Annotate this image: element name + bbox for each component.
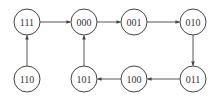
state-node-000: 000 — [71, 9, 97, 35]
node-label: 000 — [77, 17, 92, 28]
state-node-101: 101 — [71, 66, 97, 92]
edges — [27, 22, 193, 79]
state-node-110: 110 — [14, 66, 40, 92]
state-node-011: 011 — [180, 66, 206, 92]
state-diagram: 111000001010110101100011 — [0, 0, 214, 103]
node-label: 110 — [20, 74, 35, 85]
state-node-100: 100 — [121, 66, 147, 92]
node-label: 001 — [127, 17, 142, 28]
state-node-001: 001 — [121, 9, 147, 35]
node-label: 011 — [186, 74, 201, 85]
state-node-111: 111 — [14, 9, 40, 35]
node-label: 111 — [20, 17, 34, 28]
node-label: 100 — [127, 74, 142, 85]
state-node-010: 010 — [180, 9, 206, 35]
node-label: 010 — [186, 17, 201, 28]
node-label: 101 — [77, 74, 92, 85]
nodes: 111000001010110101100011 — [14, 9, 206, 92]
